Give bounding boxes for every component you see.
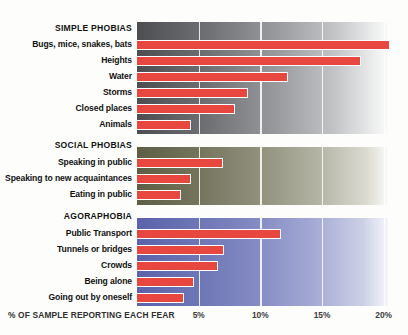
row-label: Heights — [0, 52, 132, 68]
chart-row: Animals — [0, 116, 408, 132]
row-label: Closed places — [0, 100, 132, 116]
x-axis-caption: % OF SAMPLE REPORTING EACH FEAR — [8, 308, 175, 322]
row-label: Going out by oneself — [0, 289, 132, 305]
x-axis: % OF SAMPLE REPORTING EACH FEAR 5% 10% 1… — [0, 308, 408, 328]
bar — [137, 245, 224, 256]
row-label: Being alone — [0, 273, 132, 289]
row-label: Eating in public — [0, 186, 132, 202]
bar — [137, 229, 281, 240]
section-title-simple-phobias: SIMPLE PHOBIAS — [0, 21, 132, 36]
bar — [137, 72, 288, 83]
row-label: Water — [0, 68, 132, 84]
chart-row: Crowds — [0, 257, 408, 273]
chart-row: Eating in public — [0, 186, 408, 202]
row-label: Tunnels or bridges — [0, 241, 132, 257]
x-axis-tick-5: 5% — [193, 308, 205, 322]
chart-section-simple-phobias: SIMPLE PHOBIAS Bugs, mice, snakes, bats … — [0, 22, 408, 134]
chart-row: Going out by oneself — [0, 289, 408, 305]
row-label: Bugs, mice, snakes, bats — [0, 36, 132, 52]
row-label: Public Transport — [0, 225, 132, 241]
chart-row: Heights — [0, 52, 408, 68]
bar — [137, 104, 235, 115]
chart-row: Storms — [0, 84, 408, 100]
chart-row: Bugs, mice, snakes, bats — [0, 36, 408, 52]
bar — [137, 120, 191, 131]
bar — [137, 88, 248, 99]
row-label: Animals — [0, 116, 132, 132]
row-label: Crowds — [0, 257, 132, 273]
chart-section-social-phobias: SOCIAL PHOBIAS Speaking in public Speaki… — [0, 147, 408, 205]
bar — [137, 190, 181, 201]
row-label: Speaking to new acquaintances — [0, 170, 132, 186]
phobia-prevalence-chart: SIMPLE PHOBIAS Bugs, mice, snakes, bats … — [0, 0, 408, 335]
bar — [137, 56, 361, 67]
bar — [137, 158, 223, 169]
bar — [137, 174, 191, 185]
bar — [137, 261, 218, 272]
bar — [137, 293, 184, 304]
bar — [137, 40, 390, 51]
chart-row: Water — [0, 68, 408, 84]
section-title-agoraphobia: AGORAPHOBIA — [0, 209, 132, 224]
chart-row: Speaking in public — [0, 154, 408, 170]
chart-row: Speaking to new acquaintances — [0, 170, 408, 186]
section-title-social-phobias: SOCIAL PHOBIAS — [0, 138, 132, 153]
chart-row: Public Transport — [0, 225, 408, 241]
chart-row: Being alone — [0, 273, 408, 289]
row-label: Storms — [0, 84, 132, 100]
x-axis-tick-10: 10% — [252, 308, 268, 322]
chart-row: Tunnels or bridges — [0, 241, 408, 257]
x-axis-tick-15: 15% — [314, 308, 330, 322]
bar — [137, 277, 194, 288]
chart-row: Closed places — [0, 100, 408, 116]
x-axis-tick-20: 20% — [375, 308, 391, 322]
row-label: Speaking in public — [0, 154, 132, 170]
chart-section-agoraphobia: AGORAPHOBIA Public Transport Tunnels or … — [0, 218, 408, 306]
